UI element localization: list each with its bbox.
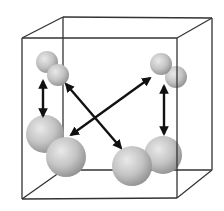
molecule-bottom-left — [26, 115, 86, 177]
molecule-bottom-right — [112, 136, 182, 186]
cube-edge — [63, 17, 212, 18]
cube-edge — [22, 17, 63, 38]
unit-cell-diagram — [0, 0, 224, 211]
molecule-top-left — [36, 51, 69, 86]
diagonal-double-arrow-down-icon — [66, 84, 121, 148]
molecule-top-right — [150, 53, 187, 88]
atom-sphere — [150, 53, 172, 75]
atom-sphere — [47, 64, 69, 86]
cube-edge — [177, 18, 212, 38]
cube-edge — [177, 170, 212, 198]
diagonal-double-arrow-up-icon — [71, 78, 150, 135]
cube-edge — [22, 198, 177, 199]
atom-sphere — [46, 137, 86, 177]
atom-sphere — [112, 146, 152, 186]
